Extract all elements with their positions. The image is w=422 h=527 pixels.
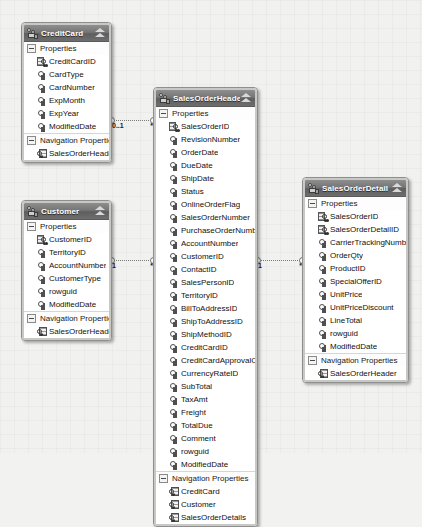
section-header-properties[interactable]: Properties — [24, 42, 109, 55]
association-creditcard-salesorderheader[interactable]: 0..1* — [110, 112, 155, 128]
property-row[interactable]: ExpMonth — [24, 94, 109, 107]
chevron-double-up-icon[interactable] — [94, 27, 106, 39]
property-name: TerritoryID — [181, 291, 218, 300]
property-row[interactable]: SalesOrderDetailID — [305, 223, 406, 236]
section-header-navigation-properties[interactable]: Navigation Properties — [24, 133, 109, 147]
property-row[interactable]: CurrencyRateID — [156, 367, 255, 380]
property-row[interactable]: ProductID — [305, 262, 406, 275]
navigation-property-row[interactable]: SalesOrderDetails — [156, 511, 255, 524]
key-icon — [37, 261, 47, 271]
key-icon — [169, 239, 179, 249]
navigation-property-row[interactable]: SalesOrderHeader — [305, 367, 406, 380]
chevron-double-up-icon[interactable] — [391, 182, 403, 194]
property-name: rowguid — [181, 447, 209, 456]
property-row[interactable]: Freight — [156, 406, 255, 419]
section-header-navigation-properties[interactable]: Navigation Properties — [24, 311, 109, 325]
entity-title-bar[interactable]: SalesOrderDetail — [305, 180, 406, 197]
property-row[interactable]: TotalDue — [156, 419, 255, 432]
entity-title-bar[interactable]: SalesOrderHeader — [156, 90, 255, 107]
property-row[interactable]: CustomerID — [156, 250, 255, 263]
property-row[interactable]: SalesOrderID — [156, 120, 255, 133]
section-header-properties[interactable]: Properties — [156, 107, 255, 120]
property-row[interactable]: PurchaseOrderNumber — [156, 224, 255, 237]
navigation-property-row[interactable]: SalesOrderHeaders — [24, 147, 109, 160]
property-name: ModifiedDate — [49, 300, 96, 309]
association-line[interactable] — [256, 260, 304, 261]
section-header-navigation-properties[interactable]: Navigation Properties — [156, 471, 255, 485]
property-row[interactable]: CreditCardID — [24, 55, 109, 68]
entity-box-salesorderheader[interactable]: SalesOrderHeaderPropertiesSalesOrderIDRe… — [153, 87, 258, 527]
chevron-double-up-icon[interactable] — [240, 92, 252, 104]
property-row[interactable]: OnlineOrderFlag — [156, 198, 255, 211]
property-row[interactable]: ShipMethodID — [156, 328, 255, 341]
property-row[interactable]: CreditCardID — [156, 341, 255, 354]
expander-icon[interactable] — [27, 136, 36, 145]
section-header-properties[interactable]: Properties — [24, 220, 109, 233]
property-row[interactable]: SubTotal — [156, 380, 255, 393]
property-row[interactable]: CustomerType — [24, 272, 109, 285]
key-icon — [169, 447, 179, 457]
property-row[interactable]: CreditCardApprovalCode — [156, 354, 255, 367]
property-row[interactable]: ModifiedDate — [156, 458, 255, 471]
entity-box-customer[interactable]: CustomerPropertiesCustomerIDTerritoryIDA… — [21, 200, 112, 341]
property-row[interactable]: CardNumber — [24, 81, 109, 94]
property-row[interactable]: ModifiedDate — [24, 120, 109, 133]
entity-box-creditcard[interactable]: CreditCardPropertiesCreditCardIDCardType… — [21, 22, 112, 163]
entity-title-bar[interactable]: Customer — [24, 203, 109, 220]
entity-title-bar[interactable]: CreditCard — [24, 25, 109, 42]
property-row[interactable]: rowguid — [24, 285, 109, 298]
section-header-properties[interactable]: Properties — [305, 197, 406, 210]
property-row[interactable]: TerritoryID — [156, 289, 255, 302]
expander-icon[interactable] — [27, 314, 36, 323]
chevron-double-up-icon[interactable] — [94, 205, 106, 217]
property-row[interactable]: DueDate — [156, 159, 255, 172]
navigation-property-name: SalesOrderHeaders — [49, 149, 109, 158]
property-row[interactable]: rowguid — [156, 445, 255, 458]
expander-icon[interactable] — [159, 109, 168, 118]
property-row[interactable]: AccountNumber — [156, 237, 255, 250]
property-row[interactable]: CustomerID — [24, 233, 109, 246]
property-row[interactable]: UnitPriceDiscount — [305, 301, 406, 314]
property-row[interactable]: OrderDate — [156, 146, 255, 159]
property-row[interactable]: ShipDate — [156, 172, 255, 185]
property-row[interactable]: ExpYear — [24, 107, 109, 120]
property-row[interactable]: CarrierTrackingNumber — [305, 236, 406, 249]
expander-icon[interactable] — [159, 474, 168, 483]
entity-box-salesorderdetail[interactable]: SalesOrderDetailPropertiesSalesOrderIDSa… — [302, 177, 409, 383]
property-row[interactable]: CardType — [24, 68, 109, 81]
property-row[interactable]: UnitPrice — [305, 288, 406, 301]
navigation-property-row[interactable]: Customer — [156, 498, 255, 511]
association-salesorderheader-salesorderdetail[interactable]: 1* — [256, 252, 304, 268]
property-row[interactable]: LineTotal — [305, 314, 406, 327]
property-row[interactable]: SalesOrderID — [305, 210, 406, 223]
property-row[interactable]: RevisionNumber — [156, 133, 255, 146]
section-header-navigation-properties[interactable]: Navigation Properties — [305, 353, 406, 367]
association-line[interactable] — [110, 120, 155, 121]
property-row[interactable]: ShipToAddressID — [156, 315, 255, 328]
association-line[interactable] — [110, 260, 155, 261]
property-row[interactable]: Status — [156, 185, 255, 198]
property-row[interactable]: Comment — [156, 432, 255, 445]
property-row[interactable]: ModifiedDate — [24, 298, 109, 311]
expander-icon[interactable] — [27, 222, 36, 231]
property-row[interactable]: TaxAmt — [156, 393, 255, 406]
expander-icon[interactable] — [308, 356, 317, 365]
property-row[interactable]: ContactID — [156, 263, 255, 276]
property-row[interactable]: AccountNumber — [24, 259, 109, 272]
navigation-property-row[interactable]: SalesOrderHeaders — [24, 325, 109, 338]
property-name: SalesOrderDetailID — [330, 225, 399, 234]
property-row[interactable]: rowguid — [305, 327, 406, 340]
property-row[interactable]: TerritoryID — [24, 246, 109, 259]
property-row[interactable]: SalesOrderNumber — [156, 211, 255, 224]
property-row[interactable]: BillToAddressID — [156, 302, 255, 315]
association-customer-salesorderheader[interactable]: 1* — [110, 252, 155, 268]
expander-icon[interactable] — [308, 199, 317, 208]
property-row[interactable]: ModifiedDate — [305, 340, 406, 353]
property-name: OrderDate — [181, 148, 218, 157]
expander-icon[interactable] — [27, 44, 36, 53]
property-row[interactable]: OrderQty — [305, 249, 406, 262]
navigation-property-row[interactable]: CreditCard — [156, 485, 255, 498]
property-row[interactable]: SpecialOfferID — [305, 275, 406, 288]
property-row[interactable]: SalesPersonID — [156, 276, 255, 289]
